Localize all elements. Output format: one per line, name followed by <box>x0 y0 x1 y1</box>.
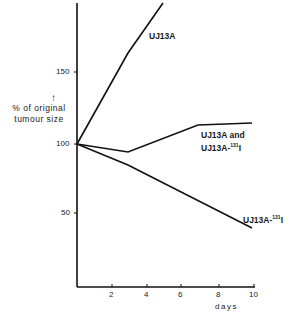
label-uj13a-131i: UJ13A-131I <box>243 212 283 225</box>
y-tick-50: 50 <box>61 208 70 217</box>
y-axis-label: % of original tumour size <box>8 103 70 125</box>
x-axis-label: days <box>215 302 238 311</box>
y-tick-100: 100 <box>56 139 69 148</box>
x-tick-8: 8 <box>216 290 220 299</box>
up-arrow-icon: ↑ <box>51 92 56 103</box>
label-combined: UJ13A and UJ13A-131I <box>201 130 245 153</box>
chart-plot <box>0 0 295 319</box>
y-tick-150: 150 <box>56 67 69 76</box>
x-tick-10: 10 <box>249 290 258 299</box>
x-tick-6: 6 <box>178 290 182 299</box>
x-tick-2: 2 <box>109 290 113 299</box>
x-tick-4: 4 <box>144 290 148 299</box>
label-uj13a: UJ13A <box>149 31 175 41</box>
series-uj13a-131i <box>77 144 252 228</box>
series-uj13a <box>77 3 163 144</box>
